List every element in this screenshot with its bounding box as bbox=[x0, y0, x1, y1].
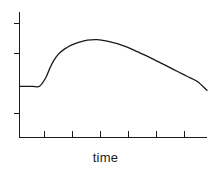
line-chart-plot bbox=[0, 0, 211, 174]
data-curve bbox=[20, 40, 208, 91]
chart-figure: time bbox=[0, 0, 211, 174]
x-axis-label: time bbox=[0, 150, 211, 166]
